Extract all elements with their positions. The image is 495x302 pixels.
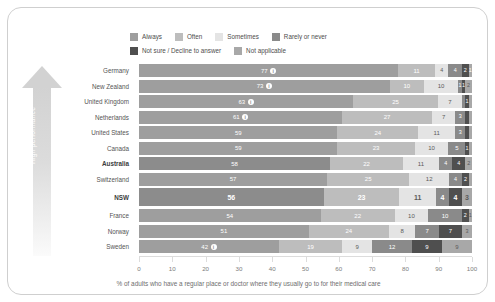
bar-segment[interactable]: 1 [469,209,472,222]
bar-segment[interactable]: 59 [139,142,337,155]
bar-segment[interactable]: 27 [342,111,432,124]
segment-value: 11 [434,130,440,136]
segment-value: 59 [235,130,242,136]
bar-segment[interactable]: 12 [409,173,449,186]
bar-segment[interactable]: 12 [372,240,412,253]
bar-segment[interactable]: 7 [438,95,462,108]
bar-segment[interactable]: 61i [139,111,342,124]
segment-value: 2 [464,177,467,182]
bar-segment[interactable]: 4 [449,188,462,206]
info-icon[interactable]: i [270,68,276,74]
bar-row[interactable]: Sweden42i1991299 [68,240,472,253]
bar-row[interactable]: Canada59231051 [68,142,472,155]
bar-segment[interactable]: 7 [432,111,455,124]
legend-swatch-sometimes [215,33,223,41]
bar-segment[interactable] [469,173,472,186]
legend-label: Always [142,33,162,41]
bar-segment[interactable]: 11 [403,157,439,170]
bar-segment[interactable]: 57 [139,173,327,186]
bar-segment[interactable]: 4 [436,188,449,206]
bar-segment[interactable]: 63i [139,95,353,108]
bar-segment[interactable]: 4 [448,64,461,77]
bar-segment[interactable]: 1 [469,64,472,77]
bar-segment[interactable]: 58 [139,157,330,170]
bar-segment[interactable]: 4 [435,64,448,77]
bar-segment[interactable]: 23 [324,188,400,206]
bar-segment[interactable] [469,111,472,124]
bar-segment[interactable]: 10 [395,209,429,222]
bar-segment[interactable]: 24 [337,126,418,139]
bar-segment[interactable]: 10 [424,80,458,93]
bar-row[interactable]: NSW562311443 [68,188,472,206]
bar-segment[interactable]: 10 [415,142,449,155]
info-icon[interactable]: i [266,83,272,89]
legend-item[interactable]: Sometimes [215,33,259,41]
bar-segment[interactable]: 11 [399,188,435,206]
bar-segment[interactable]: 73i [139,80,390,93]
bar-segment[interactable]: 5 [448,142,465,155]
info-icon[interactable]: i [248,99,254,105]
bar-segment[interactable]: 51 [139,225,309,238]
bar-segment[interactable]: 2 [462,209,469,222]
legend-item[interactable]: Not sure / Decline to answer [130,47,221,55]
bar-segment[interactable]: 11 [398,64,435,77]
bar-segment[interactable] [469,126,472,139]
bar-row[interactable]: Norway51248773 [68,225,472,238]
info-icon[interactable]: i [242,114,248,120]
bar-segment[interactable]: 2 [462,173,469,186]
bar-segment[interactable] [469,142,472,155]
bar-segment[interactable]: 2 [465,80,472,93]
bar-segment[interactable]: 54 [139,209,321,222]
bar-segment[interactable]: 22 [330,157,403,170]
segment-value: 56 [227,194,235,201]
info-icon[interactable]: i [211,244,217,250]
legend-item[interactable]: Rarely or never [272,33,327,41]
bar-segment[interactable]: 10 [390,80,424,93]
segment-value: 10 [442,213,449,219]
bar-segment[interactable]: 7 [415,225,438,238]
row-category-label: United States [68,126,134,139]
bar-segment[interactable]: 42i [139,240,279,253]
bar-segment[interactable]: 25 [353,95,438,108]
bar-segment[interactable]: 77i [139,64,398,77]
bar-segment[interactable]: 4 [439,157,452,170]
legend-item[interactable]: Always [130,33,162,41]
bar-segment[interactable]: 4 [449,173,462,186]
bar-segment[interactable]: 11 [418,126,455,139]
segment-value: 8 [400,228,403,234]
bar-segment[interactable]: 9 [342,240,372,253]
axis-tick-label: 90 [435,265,442,272]
segment-value: 61 [233,114,240,120]
bar-row[interactable]: Netherlands61i2773 [68,111,472,124]
bar-segment[interactable]: 3 [455,111,465,124]
bar-segment[interactable]: 10 [428,209,462,222]
bar-segment[interactable]: 9 [442,240,472,253]
bar-segment[interactable]: 2 [462,64,469,77]
segment-value: 42 [201,244,208,250]
bar-segment[interactable]: 56 [139,188,324,206]
bar-segment[interactable]: 3 [462,225,472,238]
bar-row[interactable]: United States5924113 [68,126,472,139]
bar-row[interactable]: France5422101021 [68,209,472,222]
bar-segment[interactable]: 2 [465,157,472,170]
bar-segment[interactable]: 8 [389,225,416,238]
bar-row[interactable]: Australia582211442 [68,157,472,170]
bar-segment[interactable]: 9 [412,240,442,253]
bar-segment[interactable]: 59 [139,126,337,139]
bar-segment[interactable]: 24 [309,225,389,238]
bar-segment[interactable]: 3 [455,126,465,139]
bar-row[interactable]: Switzerland57251242 [68,173,472,186]
bar-segment[interactable] [469,95,472,108]
bar-segment[interactable]: 7 [439,225,462,238]
bar-segment[interactable]: 25 [327,173,409,186]
legend-item[interactable]: Not applicable [234,47,286,55]
bar-segment[interactable]: 3 [462,188,472,206]
bar-row[interactable]: United Kingdom63i2571 [68,95,472,108]
bar-row[interactable]: New Zealand73i1010112 [68,80,472,93]
bar-segment[interactable]: 4 [452,157,465,170]
bar-row[interactable]: Germany77i114421 [68,64,472,77]
bar-segment[interactable]: 19 [279,240,342,253]
legend-item[interactable]: Often [175,33,202,41]
bar-segment[interactable]: 23 [337,142,414,155]
bar-segment[interactable]: 22 [321,209,395,222]
